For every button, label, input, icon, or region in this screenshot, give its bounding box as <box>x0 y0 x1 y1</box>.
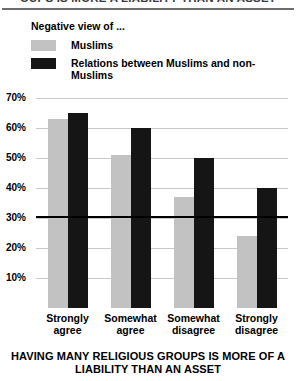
bar-group <box>99 98 162 308</box>
y-axis-tick-label: 20% <box>0 243 26 253</box>
bar <box>194 158 214 308</box>
x-axis-label: Strongly disagree <box>225 312 288 336</box>
y-axis-tick-label: 40% <box>0 183 26 193</box>
y-axis-tick-label: 50% <box>0 153 26 163</box>
bar <box>131 128 151 308</box>
legend-swatch-muslims <box>31 40 56 51</box>
y-axis-tick-label: 10% <box>0 273 26 283</box>
clipped-headline-text: OUPS IS MORE A LIABILITY THAN AN ASSET <box>0 0 296 5</box>
bar-columns <box>36 98 288 308</box>
bar <box>174 197 194 308</box>
x-axis-line <box>36 216 288 218</box>
bar <box>68 113 88 308</box>
header-divider <box>2 8 294 10</box>
x-axis-labels: Strongly agreeSomewhat agreeSomewhat dis… <box>36 312 288 336</box>
legend-title: Negative view of ... <box>31 20 281 32</box>
x-axis-label: Somewhat disagree <box>162 312 225 336</box>
bar <box>48 119 68 308</box>
bar-group <box>225 98 288 308</box>
legend-item-relations: Relations between Muslims and non-Muslim… <box>31 57 281 82</box>
y-axis-tick-label: 60% <box>0 123 26 133</box>
bar <box>237 236 257 308</box>
bar <box>111 155 131 308</box>
x-axis-label: Somewhat agree <box>99 312 162 336</box>
legend-item-muslims: Muslims <box>31 39 281 52</box>
legend-label-relations: Relations between Muslims and non-Muslim… <box>71 57 281 82</box>
bar-group <box>162 98 225 308</box>
chart-legend: Negative view of ... Muslims Relations b… <box>31 20 281 87</box>
legend-label-muslims: Muslims <box>71 39 113 52</box>
clipped-headline: OUPS IS MORE A LIABILITY THAN AN ASSET <box>0 0 296 6</box>
x-axis-label: Strongly agree <box>36 312 99 336</box>
y-axis-tick-label: 30% <box>0 213 26 223</box>
y-axis-tick-label: 70% <box>0 93 26 103</box>
bar-chart: 70%60%50%40%30%20%10% <box>0 92 296 312</box>
x-axis-title: HAVING MANY RELIGIOUS GROUPS IS MORE OF … <box>8 350 288 376</box>
bar-group <box>36 98 99 308</box>
legend-swatch-relations <box>31 58 56 69</box>
bar <box>257 188 277 308</box>
